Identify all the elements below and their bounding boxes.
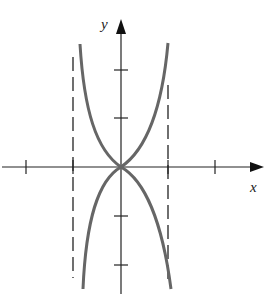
y-axis <box>114 19 128 294</box>
graph-svg <box>0 0 270 294</box>
x-axis <box>2 160 264 174</box>
curves <box>80 43 171 289</box>
y-axis-label: y <box>101 16 108 33</box>
x-axis-label: x <box>250 179 257 196</box>
graph-figure: y x <box>0 0 270 294</box>
